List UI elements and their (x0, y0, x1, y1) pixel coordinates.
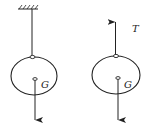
left-figure: G (11, 5, 57, 120)
ceiling (18, 5, 38, 9)
right-figure: T G (92, 22, 140, 120)
attachment-point (30, 55, 35, 58)
gravity-label: G (41, 79, 49, 90)
physics-diagram: G T G (0, 0, 155, 123)
tension-label: T (132, 23, 140, 34)
center-of-mass (33, 78, 37, 81)
center-of-mass (116, 77, 120, 80)
ball (11, 57, 57, 95)
gravity-label: G (124, 79, 132, 90)
attachment-point (114, 54, 119, 57)
ball (92, 56, 140, 94)
